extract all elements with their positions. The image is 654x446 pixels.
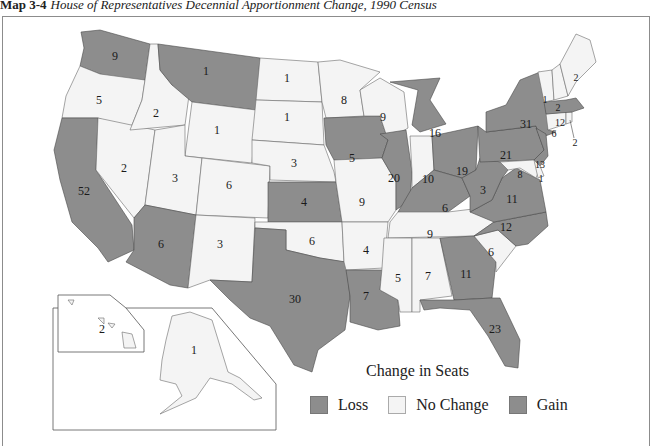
label-IL: 20	[388, 171, 400, 185]
state-CO	[196, 158, 270, 218]
label-IA: 5	[349, 151, 355, 165]
label-NE: 3	[291, 156, 297, 170]
label-MT: 1	[203, 64, 209, 78]
state-ME	[560, 34, 596, 96]
label-MD: 8	[518, 169, 523, 180]
label-NY: 31	[520, 117, 532, 131]
label-WV: 3	[480, 183, 486, 197]
state-IA	[324, 116, 388, 160]
label-HI: 2	[99, 322, 105, 336]
label-AK: 1	[191, 343, 197, 357]
label-KS: 4	[301, 195, 307, 209]
state-WY	[185, 102, 256, 163]
label-ID: 2	[153, 106, 159, 120]
label-IN: 10	[422, 172, 434, 186]
label-OR: 5	[96, 93, 102, 107]
label-KY: 6	[442, 201, 448, 215]
label-NC: 12	[500, 220, 512, 234]
label-WI: 9	[380, 110, 386, 124]
label-VT: 1	[543, 94, 548, 105]
label-NV: 2	[121, 161, 127, 175]
label-WA: 9	[112, 49, 118, 63]
label-SC: 6	[488, 245, 494, 259]
legend-label-no-change: No Change	[416, 396, 488, 414]
label-MS: 5	[395, 271, 401, 285]
gain-swatch	[509, 396, 527, 414]
label-TX: 30	[289, 292, 301, 306]
label-CA: 52	[78, 184, 90, 198]
label-MO: 9	[359, 195, 365, 209]
label-AZ: 6	[158, 237, 164, 251]
state-MO	[334, 158, 396, 222]
label-WY: 1	[214, 123, 220, 137]
state-RI	[566, 112, 572, 124]
label-CT: 6	[552, 128, 557, 139]
label-UT: 3	[172, 171, 178, 185]
label-OH: 19	[456, 164, 468, 178]
label-VA: 11	[506, 192, 518, 206]
label-DE: 1	[539, 173, 544, 184]
label-CO: 6	[226, 178, 232, 192]
label-PA: 21	[500, 148, 512, 162]
label-ME: 2	[574, 72, 579, 83]
label-MI: 16	[429, 126, 441, 140]
state-FL	[420, 298, 520, 368]
state-NM	[188, 215, 255, 288]
label-NM: 3	[217, 237, 223, 251]
label-AR: 4	[363, 243, 369, 257]
label-NJ: 13	[535, 159, 545, 170]
label-MA: 12	[555, 117, 565, 128]
no-change-swatch	[388, 396, 406, 414]
legend-item-gain: Gain	[509, 396, 568, 414]
label-ND: 1	[284, 71, 290, 85]
legend-item-loss: Loss	[310, 396, 368, 414]
label-MN: 8	[341, 93, 347, 107]
label-LA: 7	[363, 289, 369, 303]
ri-leader-line	[570, 120, 574, 138]
label-AL: 7	[425, 269, 431, 283]
label-GA: 11	[460, 267, 472, 281]
legend-label-loss: Loss	[338, 396, 368, 414]
label-OK: 6	[309, 234, 315, 248]
loss-swatch	[310, 396, 328, 414]
legend: Loss No Change Gain	[310, 396, 588, 414]
legend-label-gain: Gain	[537, 396, 568, 414]
label-TN: 9	[427, 227, 433, 241]
label-NH: 2	[556, 102, 561, 113]
label-RI: 2	[573, 137, 578, 148]
legend-title: Change in Seats	[366, 362, 469, 380]
legend-item-no-change: No Change	[388, 396, 488, 414]
label-FL: 23	[489, 322, 501, 336]
label-SD: 1	[284, 110, 290, 124]
